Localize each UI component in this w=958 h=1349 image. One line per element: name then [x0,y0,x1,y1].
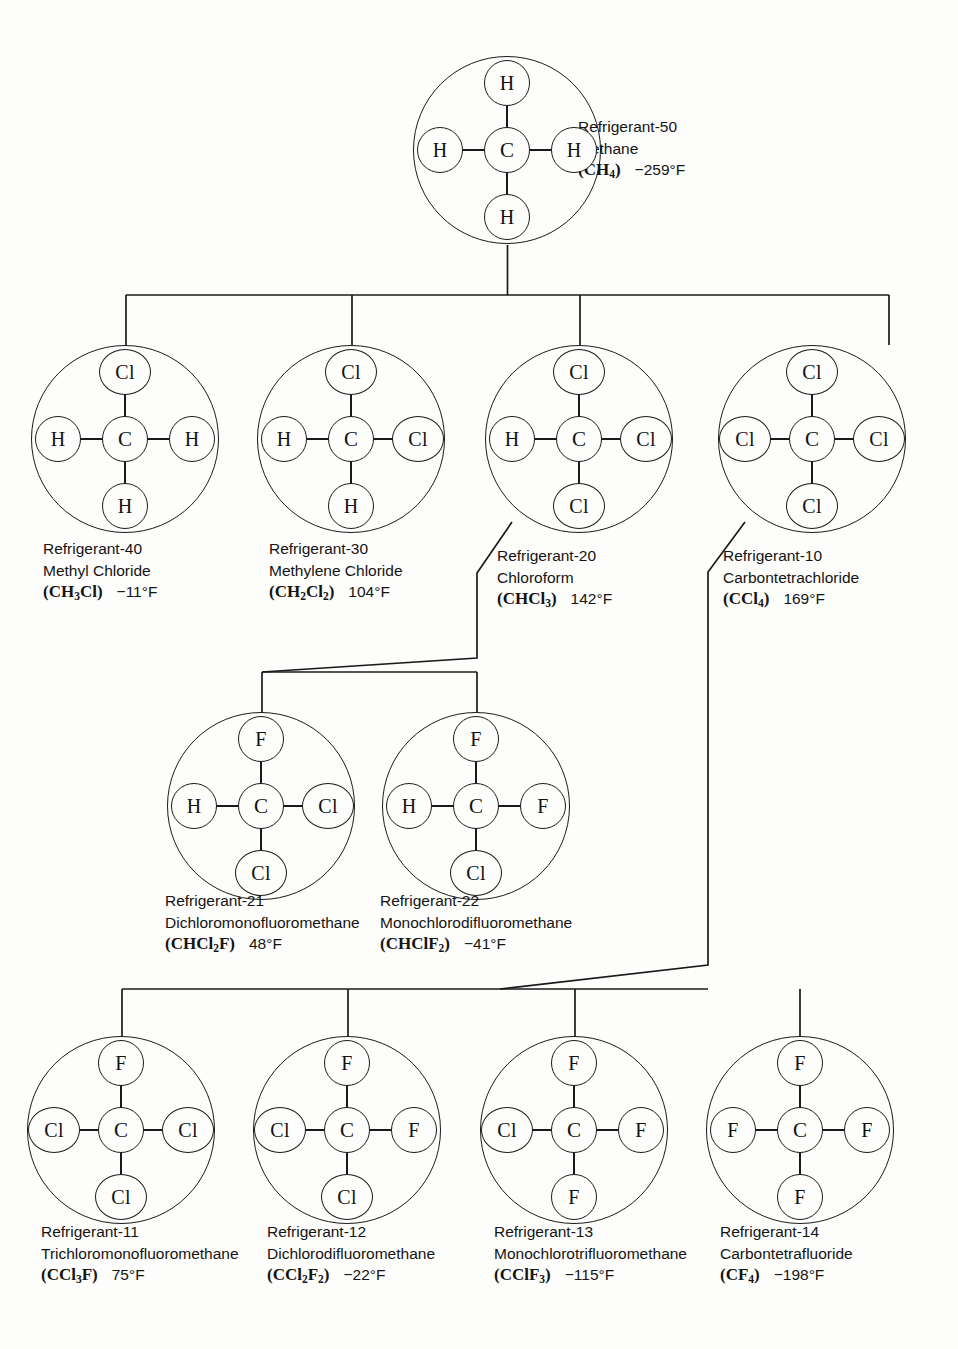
atom-left: Cl [254,1107,306,1153]
molecule-r20: Cl H C Cl Cl [485,345,675,535]
refrigerant-number: Refrigerant-11 [41,1221,239,1243]
refrigerant-formula: (CH3Cl) [43,582,103,601]
refrigerant-temperature: −11°F [103,583,158,600]
refrigerant-formula: (CCl2F2) [267,1265,330,1284]
refrigerant-formula: (CCl4) [723,589,769,608]
atom-right: Cl [302,783,354,829]
atom-down: F [551,1174,597,1220]
caption-r13: Refrigerant-13 Monochlorotrifluoromethan… [494,1221,687,1290]
bond-left [531,438,559,439]
atom-right: Cl [162,1107,214,1153]
atom-center: C [238,783,284,829]
atom-right: F [618,1107,664,1153]
bond-up [124,391,125,419]
refrigerant-name: Monochlorodifluoromethane [380,912,572,934]
caption-r21: Refrigerant-21 Dichloromonofluoromethane… [165,890,360,959]
caption-r40: Refrigerant-40 Methyl Chloride (CH3Cl)−1… [43,538,157,607]
bond-up [346,1082,347,1110]
refrigerant-formula: (CCl3F) [41,1265,98,1284]
atom-left: H [417,127,463,173]
bond-up [578,391,579,419]
atom-left: H [35,416,81,462]
atom-left: Cl [28,1107,80,1153]
refrigerant-name: Methylene Chloride [269,560,403,582]
atom-down: H [102,483,148,529]
refrigerant-formula: (CHCl2F) [165,934,235,953]
atom-down: Cl [321,1174,373,1220]
caption-r11: Refrigerant-11 Trichloromonofluoromethan… [41,1221,239,1290]
refrigerant-family-diagram: H H C H H Refrigerant-50 Methane (CH4)−2… [0,0,958,1349]
bond-up [475,758,476,786]
atom-up: F [98,1040,144,1086]
atom-down: Cl [95,1174,147,1220]
refrigerant-temperature: −259°F [621,161,686,178]
refrigerant-number: Refrigerant-12 [267,1221,435,1243]
atom-center: C [102,416,148,462]
atom-down: Cl [553,483,605,529]
caption-r22: Refrigerant-22 Monochlorodifluoromethane… [380,890,572,959]
molecule-r30: Cl H C Cl H [257,345,447,535]
refrigerant-number: Refrigerant-13 [494,1221,687,1243]
atom-down: F [777,1174,823,1220]
atom-right: H [169,416,215,462]
molecule-r22: F H C F Cl [382,712,572,902]
bond-up [573,1082,574,1110]
molecule-r14: F F C F F [706,1036,896,1226]
atom-right: Cl [620,416,672,462]
atom-down: H [328,483,374,529]
refrigerant-name: Carbontetrafluoride [720,1243,853,1265]
refrigerant-name: Dichlorodifluoromethane [267,1243,435,1265]
bond-up [799,1082,800,1110]
atom-left: H [261,416,307,462]
molecule-r10: Cl Cl C Cl Cl [718,345,908,535]
atom-up: F [238,716,284,762]
molecule-r21: F H C Cl Cl [167,712,357,902]
refrigerant-name: Methyl Chloride [43,560,157,582]
bond-up [506,102,507,130]
refrigerant-number: Refrigerant-40 [43,538,157,560]
atom-up: Cl [786,349,838,395]
atom-center: C [328,416,374,462]
atom-center: C [556,416,602,462]
atom-left: Cl [719,416,771,462]
atom-right: Cl [392,416,444,462]
atom-up: F [777,1040,823,1086]
caption-r30: Refrigerant-30 Methylene Chloride (CH2Cl… [269,538,403,607]
atom-up: F [551,1040,597,1086]
atom-down: H [484,194,530,240]
atom-up: Cl [325,349,377,395]
atom-up: F [324,1040,370,1086]
molecule-r12: F Cl C F Cl [253,1036,443,1226]
atom-right: F [844,1107,890,1153]
atom-left: H [489,416,535,462]
refrigerant-name: Trichloromonofluoromethane [41,1243,239,1265]
atom-up: F [453,716,499,762]
atom-center: C [789,416,835,462]
atom-up: H [484,60,530,106]
refrigerant-number: Refrigerant-10 [723,545,859,567]
atom-center: C [551,1107,597,1153]
refrigerant-formula: (CF4) [720,1265,760,1284]
refrigerant-name: Dichloromonofluoromethane [165,912,360,934]
atom-center: C [484,127,530,173]
refrigerant-formula: (CH2Cl2) [269,582,334,601]
atom-right: H [551,127,597,173]
refrigerant-number: Refrigerant-14 [720,1221,853,1243]
bond-up [811,391,812,419]
molecule-r40: Cl H C H H [31,345,221,535]
refrigerant-number: Refrigerant-50 [578,116,685,138]
refrigerant-temperature: −115°F [551,1266,614,1283]
atom-left: H [386,783,432,829]
atom-left: F [710,1107,756,1153]
bond-left [459,149,487,150]
refrigerant-name: Chloroform [497,567,612,589]
atom-down: Cl [235,850,287,896]
caption-r14: Refrigerant-14 Carbontetrafluoride (CF4)… [720,1221,853,1290]
refrigerant-temperature: 169°F [769,590,825,607]
atom-up: Cl [99,349,151,395]
atom-center: C [324,1107,370,1153]
caption-r12: Refrigerant-12 Dichlorodifluoromethane (… [267,1221,435,1290]
bond-up [120,1082,121,1110]
refrigerant-formula: (CHCl3) [497,589,557,608]
bond-left [428,805,456,806]
